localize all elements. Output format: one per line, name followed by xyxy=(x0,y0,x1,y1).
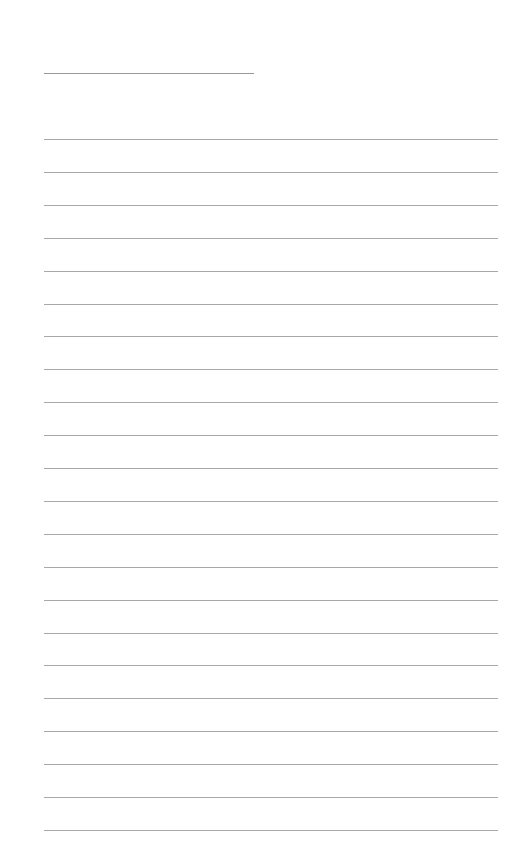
ruled-line xyxy=(44,567,498,568)
ruled-line xyxy=(44,304,498,305)
ruled-line xyxy=(44,369,498,370)
ruled-line xyxy=(44,336,498,337)
name-line xyxy=(44,73,254,74)
ruled-line xyxy=(44,435,498,436)
ruled-line xyxy=(44,205,498,206)
ruled-line xyxy=(44,172,498,173)
ruled-line xyxy=(44,534,498,535)
ruled-line xyxy=(44,139,498,140)
ruled-line xyxy=(44,238,498,239)
ruled-line xyxy=(44,402,498,403)
ruled-line xyxy=(44,600,498,601)
ruled-line xyxy=(44,665,498,666)
ruled-line xyxy=(44,698,498,699)
ruled-line xyxy=(44,501,498,502)
ruled-line xyxy=(44,468,498,469)
ruled-line xyxy=(44,830,498,831)
ruled-line xyxy=(44,731,498,732)
ruled-line xyxy=(44,271,498,272)
ruled-line xyxy=(44,797,498,798)
ruled-line xyxy=(44,633,498,634)
ruled-line xyxy=(44,764,498,765)
